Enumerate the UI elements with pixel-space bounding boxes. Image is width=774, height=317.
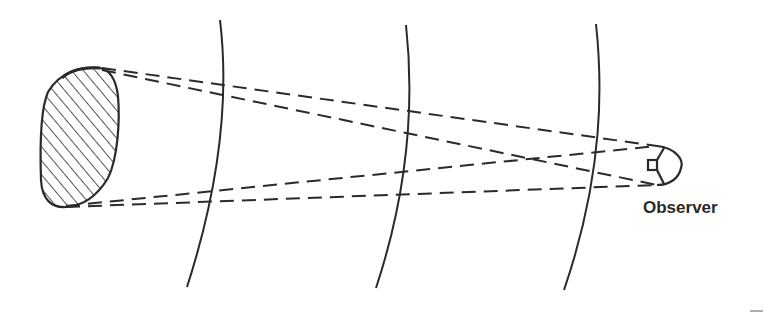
observer-label: Observer bbox=[643, 198, 718, 217]
ray-top-to-observer-top bbox=[102, 68, 657, 146]
eye-upper-edge bbox=[657, 148, 664, 160]
observation-diagram: Observer bbox=[0, 0, 774, 317]
wavefront-1 bbox=[187, 20, 223, 287]
source-object bbox=[30, 60, 130, 215]
wavefront-3 bbox=[564, 24, 599, 290]
ray-lines bbox=[66, 68, 657, 207]
wavefront-2 bbox=[376, 25, 410, 288]
wavefronts bbox=[187, 20, 599, 290]
eye-pupil bbox=[648, 160, 657, 170]
eye-lower-edge bbox=[657, 170, 664, 184]
ray-top-to-observer-bottom bbox=[102, 70, 657, 185]
observer-eye-icon bbox=[648, 146, 682, 185]
